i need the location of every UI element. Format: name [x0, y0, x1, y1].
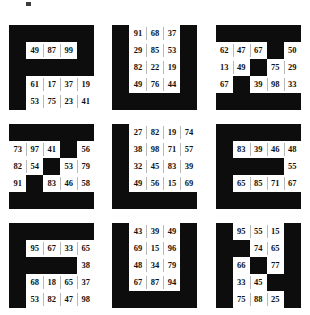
number-cell: 49 [26, 42, 43, 59]
number-cell: 69 [180, 175, 197, 192]
empty-cell [180, 59, 197, 76]
panel-container: 955515746566773345758825 [207, 216, 310, 315]
number-cell: 44 [163, 76, 180, 93]
empty-cell [9, 240, 26, 257]
empty-cell [43, 257, 60, 274]
number-cell: 33 [233, 274, 250, 291]
number-cell: 46 [60, 175, 77, 192]
empty-cell [163, 93, 180, 110]
empty-cell [180, 93, 197, 110]
number-cell: 75 [43, 93, 60, 110]
number-cell: 82 [129, 59, 146, 76]
number-cell: 95 [26, 240, 43, 257]
number-cell: 73 [9, 141, 26, 158]
panel-8: 433949691596483479678794 [112, 223, 197, 308]
empty-cell [129, 291, 146, 308]
number-cell: 82 [43, 291, 60, 308]
empty-cell [267, 42, 284, 59]
number-cell: 94 [163, 274, 180, 291]
empty-cell [216, 192, 233, 209]
number-cell: 29 [129, 42, 146, 59]
number-cell: 15 [146, 240, 163, 257]
number-cell: 67 [284, 175, 301, 192]
empty-cell [233, 76, 250, 93]
empty-cell [26, 192, 43, 209]
number-cell: 56 [77, 141, 94, 158]
panel-container: 739741568254537991834658 [0, 117, 103, 216]
number-cell: 13 [216, 59, 233, 76]
number-cell: 74 [250, 240, 267, 257]
empty-cell [216, 291, 233, 308]
empty-cell [26, 175, 43, 192]
empty-cell [129, 192, 146, 209]
number-cell: 19 [77, 76, 94, 93]
empty-cell [216, 93, 233, 110]
number-cell: 46 [267, 141, 284, 158]
empty-cell [60, 25, 77, 42]
empty-cell [26, 59, 43, 76]
empty-cell [180, 42, 197, 59]
empty-cell [146, 291, 163, 308]
number-cell: 18 [43, 274, 60, 291]
empty-cell [267, 93, 284, 110]
number-cell: 65 [267, 240, 284, 257]
empty-cell [284, 25, 301, 42]
number-cell: 39 [180, 158, 197, 175]
number-cell: 62 [216, 42, 233, 59]
number-cell: 49 [129, 76, 146, 93]
number-cell: 27 [129, 124, 146, 141]
empty-cell [233, 192, 250, 209]
empty-cell [112, 291, 129, 308]
empty-cell [216, 175, 233, 192]
empty-cell [43, 25, 60, 42]
panel-6: 833946485565857167 [216, 124, 301, 209]
number-cell: 57 [180, 141, 197, 158]
empty-cell [233, 124, 250, 141]
empty-cell [60, 223, 77, 240]
empty-cell [233, 25, 250, 42]
empty-cell [284, 223, 301, 240]
empty-cell [9, 124, 26, 141]
empty-cell [146, 93, 163, 110]
empty-cell [112, 158, 129, 175]
empty-cell [250, 192, 267, 209]
empty-cell [9, 76, 26, 93]
empty-cell [60, 141, 77, 158]
number-cell: 33 [60, 240, 77, 257]
empty-cell [233, 240, 250, 257]
number-cell: 75 [267, 59, 284, 76]
empty-cell [284, 257, 301, 274]
panel-container: 4987996117371953752341 [0, 18, 103, 117]
empty-cell [112, 240, 129, 257]
number-cell: 69 [129, 240, 146, 257]
number-cell: 76 [146, 76, 163, 93]
empty-cell [216, 257, 233, 274]
empty-cell [180, 25, 197, 42]
number-cell: 47 [233, 42, 250, 59]
number-cell: 49 [233, 59, 250, 76]
empty-cell [112, 93, 129, 110]
empty-cell [250, 124, 267, 141]
number-cell: 67 [129, 274, 146, 291]
empty-cell [9, 42, 26, 59]
number-cell: 71 [163, 141, 180, 158]
empty-cell [284, 240, 301, 257]
number-cell: 66 [233, 257, 250, 274]
number-cell: 53 [26, 93, 43, 110]
empty-cell [180, 192, 197, 209]
number-cell: 87 [43, 42, 60, 59]
number-cell: 88 [250, 291, 267, 308]
empty-cell [250, 59, 267, 76]
empty-cell [77, 42, 94, 59]
panel-container: 916837298553822219497644 [103, 18, 206, 117]
number-cell: 19 [163, 124, 180, 141]
empty-cell [180, 76, 197, 93]
number-cell: 53 [163, 42, 180, 59]
number-cell: 79 [163, 257, 180, 274]
number-cell: 34 [146, 257, 163, 274]
empty-cell [250, 93, 267, 110]
number-cell: 37 [60, 76, 77, 93]
empty-cell [267, 158, 284, 175]
empty-cell [284, 291, 301, 308]
empty-cell [26, 124, 43, 141]
